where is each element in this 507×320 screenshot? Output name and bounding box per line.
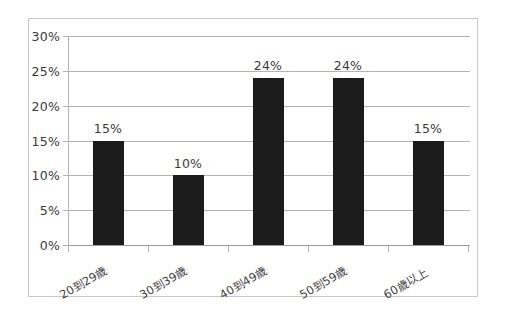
bar-40-49[interactable] [253,78,284,245]
y-axis-label-0: 0% [40,238,60,253]
y-axis-label-25: 25% [32,63,60,78]
bar-value-30-39: 10% [174,156,202,171]
x-tick-5 [468,246,469,252]
bar-value-60-plus: 15% [414,121,442,136]
y-axis-labels: 30% 25% 20% 15% 10% 5% 0% [0,0,60,320]
bar-60-plus[interactable] [413,141,444,246]
bar-20-29[interactable] [93,141,124,246]
x-tick-4 [388,246,389,252]
y-tick-15 [63,141,68,142]
y-axis-line [68,36,69,246]
bar-value-50-59: 24% [334,58,362,73]
y-tick-20 [63,106,68,107]
x-tick-0 [68,246,69,252]
bar-30-39[interactable] [173,175,204,245]
gridline-30 [68,36,470,37]
x-tick-3 [308,246,309,252]
y-tick-30 [63,36,68,37]
bar-value-40-49: 24% [254,58,282,73]
y-tick-5 [63,210,68,211]
bar-value-20-29: 15% [94,121,122,136]
y-axis-label-20: 20% [32,98,60,113]
y-axis-label-15: 15% [32,133,60,148]
y-axis-label-30: 30% [32,29,60,44]
x-tick-2 [228,246,229,252]
y-tick-25 [63,71,68,72]
y-axis-label-10: 10% [32,168,60,183]
plot-area: 15% 10% 24% 24% 15% [68,36,470,245]
x-tick-1 [148,246,149,252]
y-tick-10 [63,175,68,176]
bar-50-59[interactable] [333,78,364,245]
y-axis-label-5: 5% [40,203,60,218]
gridline-0-baseline [68,245,470,246]
